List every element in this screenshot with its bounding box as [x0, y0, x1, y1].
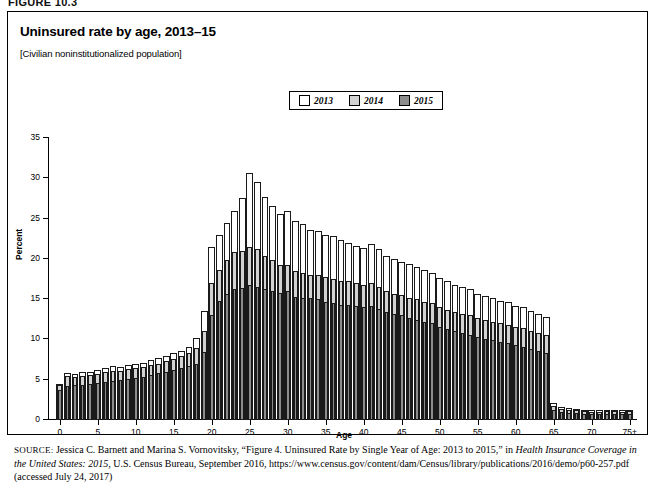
x-tick-label: 45	[397, 427, 406, 437]
bar-2015-age-73	[613, 414, 616, 420]
x-tick-label: 25	[245, 427, 254, 437]
bar-2015-age-37	[339, 305, 342, 420]
x-tick-label: 30	[283, 427, 292, 437]
bar-2015-age-20	[210, 315, 213, 420]
bar-2015-age-17	[187, 366, 190, 420]
bar-2015-age-45	[400, 315, 403, 420]
x-axis-label: Age	[336, 430, 352, 440]
x-tick	[288, 420, 289, 425]
figure-number: FIGURE 10.3	[8, 0, 77, 8]
bar-2015-age-31	[294, 297, 297, 420]
bar-2015-age-13	[157, 373, 160, 420]
bar-2015-age-1	[66, 386, 69, 420]
x-tick-label: 35	[321, 427, 330, 437]
bar-2015-age-11	[142, 377, 145, 421]
bar-2015-age-61	[522, 347, 525, 420]
bar-2015-age-12	[149, 375, 152, 420]
bar-2015-age-70	[590, 414, 593, 420]
y-axis-line	[48, 137, 49, 420]
x-tick-label: 10	[131, 427, 140, 437]
bar-2015-age-39	[354, 306, 357, 420]
bar-2015-age-62	[529, 349, 532, 420]
source-text-1: Jessica C. Barnett and Marina S. Vornovi…	[53, 444, 515, 455]
x-tick-label: 75+	[623, 427, 637, 437]
y-tick-label: 20	[31, 253, 40, 263]
bar-2015-age-49	[430, 323, 433, 420]
bar-2015-age-57	[491, 340, 494, 420]
bar-2015-age-64	[544, 353, 547, 420]
bar-2015-age-47	[415, 320, 418, 420]
y-tick	[43, 298, 48, 299]
x-tick	[516, 420, 517, 425]
bar-2015-age-72	[605, 414, 608, 420]
x-tick	[478, 420, 479, 425]
x-tick	[250, 420, 251, 425]
x-tick	[174, 420, 175, 425]
bar-2015-age-0	[58, 390, 61, 420]
bar-2015-age-18	[195, 364, 198, 420]
bar-2015-age-34	[316, 299, 319, 420]
bar-2015-age-53	[461, 333, 464, 420]
y-tick	[43, 137, 48, 138]
source-prefix: SOURCE:	[14, 445, 53, 455]
x-tick-label: 50	[435, 427, 444, 437]
bar-2015-age-60	[514, 345, 517, 420]
y-tick-label: 10	[31, 333, 40, 343]
bar-2015-age-15	[172, 370, 175, 420]
bar-2015-age-33	[309, 298, 312, 420]
y-tick-label: 5	[35, 374, 40, 384]
bar-2015-age-52	[453, 331, 456, 420]
x-tick	[212, 420, 213, 425]
x-tick	[554, 420, 555, 425]
bar-2015-age-40	[362, 307, 365, 420]
bar-2015-age-27	[263, 289, 266, 420]
bar-2015-age-41	[370, 306, 373, 420]
y-tick	[43, 338, 48, 339]
bar-2015-age-74	[620, 414, 623, 420]
bar-2015-age-36	[332, 303, 335, 420]
bar-2015-age-44	[392, 314, 395, 420]
bar-2015-age-5	[96, 383, 99, 420]
bar-2015-age-32	[301, 298, 304, 420]
bar-2015-age-38	[347, 305, 350, 420]
y-tick-label: 35	[31, 132, 40, 142]
bar-2015-age-19	[202, 352, 205, 420]
x-tick	[630, 420, 631, 425]
y-tick	[43, 218, 48, 219]
x-tick-label: 0	[57, 427, 62, 437]
y-tick-label: 15	[31, 293, 40, 303]
plot-wrapper: Percent Age 0510152025303505101520253035…	[8, 12, 649, 436]
x-tick-label: 15	[169, 427, 178, 437]
bar-2015-age-48	[423, 322, 426, 420]
bar-2015-age-24	[240, 288, 243, 420]
bar-2015-age-3	[81, 385, 84, 420]
bar-2015-age-54	[468, 335, 471, 420]
source-note: SOURCE: Jessica C. Barnett and Marina S.…	[14, 443, 644, 484]
x-tick	[326, 420, 327, 425]
bar-2015-age-23	[233, 289, 236, 420]
y-tick	[43, 419, 48, 420]
x-tick	[440, 420, 441, 425]
bar-2015-age-16	[180, 368, 183, 420]
x-tick-label: 65	[549, 427, 558, 437]
y-tick	[43, 379, 48, 380]
x-tick	[402, 420, 403, 425]
bar-2015-age-55	[476, 337, 479, 420]
bar-2015-age-25	[248, 285, 251, 420]
x-tick-label: 60	[511, 427, 520, 437]
x-tick	[98, 420, 99, 425]
bar-2015-age-6	[104, 382, 107, 420]
bar-2015-age-14	[164, 372, 167, 420]
y-tick	[43, 177, 48, 178]
bar-2015-age-22	[225, 294, 228, 420]
y-axis-label: Percent	[14, 229, 24, 260]
y-tick	[43, 258, 48, 259]
bar-2015-age-30	[286, 291, 289, 420]
bar-2015-age-66	[560, 412, 563, 420]
x-tick	[592, 420, 593, 425]
y-tick-label: 30	[31, 172, 40, 182]
bar-2015-age-4	[88, 384, 91, 420]
bar-2015-age-69	[582, 414, 585, 420]
bar-2015-age-43	[385, 312, 388, 420]
bar-2015-age-35	[324, 302, 327, 420]
